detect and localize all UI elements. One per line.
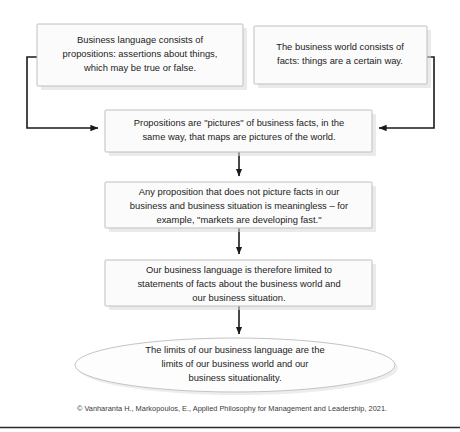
node-line: our business situation. (192, 292, 285, 303)
node-line: facts: things are a certain way. (277, 55, 403, 66)
node-limits-conclusion[interactable]: The limits of our business language are … (75, 338, 398, 395)
copyright-caption: © Vanharanta H., Markopoulos, E., Applie… (77, 404, 387, 413)
node-line: business and business situation is meani… (130, 200, 348, 211)
node-propositions-pictures[interactable]: Propositions are "pictures" of business … (105, 110, 376, 156)
node-line: statements of facts about the business w… (137, 278, 340, 289)
node-line: limits of our business world and our (162, 358, 309, 369)
node-line: Any proposition that does not picture fa… (139, 186, 340, 197)
node-line: example, "markets are developing fast." (156, 214, 321, 225)
node-line: Propositions are "pictures" of business … (134, 117, 344, 128)
node-line: Our business language is therefore limit… (146, 264, 332, 275)
node-line: same way, that maps are pictures of the … (142, 131, 335, 142)
node-business-world[interactable]: The business world consists of facts: th… (254, 26, 431, 88)
flowchart-diagram: Business language consists of propositio… (0, 0, 460, 432)
node-language-limited[interactable]: Our business language is therefore limit… (105, 260, 376, 310)
node-line: Business language consists of (77, 34, 204, 45)
flowchart-canvas: Business language consists of propositio… (0, 0, 460, 432)
node-line: which may be true or false. (83, 62, 196, 73)
node-line: propositions: assertions about things, (63, 48, 218, 59)
node-line: business situationality. (188, 372, 281, 383)
node-line: The business world consists of (276, 41, 404, 52)
node-line: The limits of our business language are … (145, 344, 324, 355)
node-meaningless-proposition[interactable]: Any proposition that does not picture fa… (105, 182, 376, 232)
node-business-language[interactable]: Business language consists of propositio… (37, 24, 247, 90)
